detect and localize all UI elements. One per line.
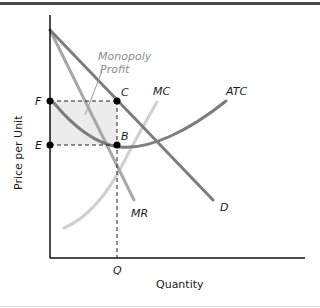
point-c-label: C [121,87,129,98]
point-e-dot [47,142,54,149]
mr-label: MR [131,208,148,219]
profit-area [50,101,117,145]
point-f-dot [47,98,54,105]
tick-e-label: E [35,140,42,151]
monopoly-profit-annotation: Monopoly Profit [98,50,151,76]
x-axis-label: Quantity [156,279,204,290]
point-b-dot [114,142,121,149]
atc-label: ATC [226,86,247,97]
annotation-line-1: Monopoly [98,50,151,63]
annotation-line-2: Profit [98,63,151,76]
tick-f-label: F [35,96,41,107]
bottom-rule [0,306,320,307]
tick-q-label: Q [113,265,122,276]
point-c-dot [114,98,121,105]
d-label: D [220,202,228,213]
mc-label: MC [153,86,170,97]
point-b-label: B [121,131,129,142]
monopoly-profit-diagram [0,0,320,308]
y-axis-label: Price per Unit [13,116,24,191]
